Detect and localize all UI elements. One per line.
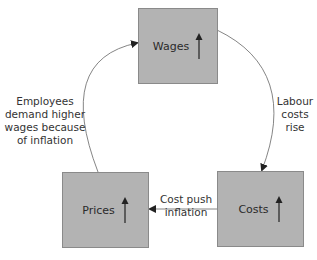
arrow-wages-to-costs <box>217 30 274 170</box>
up-arrow-icon <box>121 197 129 223</box>
node-prices: Prices <box>62 172 149 248</box>
up-arrow-icon <box>275 196 283 222</box>
node-wages: Wages <box>138 8 218 84</box>
node-wages-label: Wages <box>153 40 189 53</box>
edge-label-costs-to-prices: Cost push inflation <box>154 193 218 219</box>
arrow-prices-to-wages <box>83 43 137 172</box>
node-prices-label: Prices <box>82 204 115 217</box>
edge-label-prices-to-wages: Employees demand higher wages because of… <box>4 95 86 147</box>
node-costs: Costs <box>217 171 304 247</box>
edge-label-wages-to-costs: Labour costs rise <box>270 95 317 134</box>
up-arrow-icon <box>195 33 203 59</box>
node-costs-label: Costs <box>238 203 268 216</box>
